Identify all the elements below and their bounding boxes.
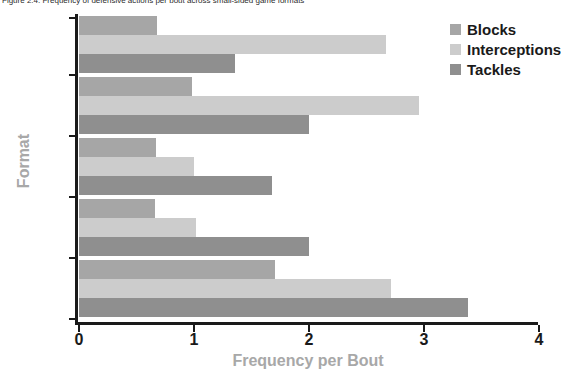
legend-label: Interceptions — [467, 42, 561, 57]
bar — [79, 77, 192, 96]
x-tick-label: 2 — [289, 331, 329, 349]
x-tick-label: 0 — [59, 331, 99, 349]
bar — [79, 16, 157, 35]
x-tick-label: 4 — [519, 331, 559, 349]
y-tick-mark — [69, 17, 76, 19]
bar — [79, 260, 275, 279]
y-axis-label: Format — [15, 101, 33, 221]
legend-item: Tackles — [450, 61, 561, 78]
y-tick-mark — [69, 74, 76, 76]
bar — [79, 279, 391, 298]
bar — [79, 96, 419, 115]
bar — [79, 35, 386, 54]
y-tick-mark — [69, 257, 76, 259]
legend-swatch-icon — [450, 24, 461, 35]
bar — [79, 298, 468, 317]
x-tick-label: 3 — [404, 331, 444, 349]
x-tick-label: 1 — [174, 331, 214, 349]
y-tick-mark — [69, 135, 76, 137]
figure-caption: Figure 2.4. Frequency of defensive actio… — [2, 0, 432, 5]
legend-swatch-icon — [450, 64, 461, 75]
bar — [79, 199, 155, 218]
legend-swatch-icon — [450, 44, 461, 55]
legend-item: Interceptions — [450, 41, 561, 58]
bar — [79, 157, 194, 176]
legend-label: Blocks — [467, 22, 516, 37]
legend-item: Blocks — [450, 21, 561, 38]
x-axis-label: Frequency per Bout — [78, 352, 538, 370]
bar — [79, 54, 235, 73]
bar — [79, 237, 309, 256]
y-tick-mark — [69, 196, 76, 198]
chart-legend: BlocksInterceptionsTackles — [450, 21, 561, 81]
bar — [79, 218, 196, 237]
bar — [79, 138, 156, 157]
bar — [79, 176, 272, 195]
x-axis-spine — [75, 322, 538, 325]
bar — [79, 115, 309, 134]
y-tick-mark — [69, 318, 76, 320]
legend-label: Tackles — [467, 62, 521, 77]
